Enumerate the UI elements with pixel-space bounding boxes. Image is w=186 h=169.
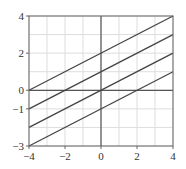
x-tick-label: 0 <box>98 150 104 162</box>
y-tick-label: −3 <box>12 140 24 152</box>
zero-axes <box>29 16 173 146</box>
x-tick-label: −2 <box>59 150 71 162</box>
y-tick-label: 0 <box>19 84 25 96</box>
y-tick-label: 4 <box>19 10 25 22</box>
line-chart: −4−2024 420−1−3 <box>0 0 186 169</box>
y-tick-label: 2 <box>19 47 25 59</box>
x-axis-ticks: −4−2024 <box>23 146 176 162</box>
y-axis-ticks: 420−1−3 <box>12 10 29 152</box>
x-tick-label: 4 <box>170 150 176 162</box>
y-tick-label: −1 <box>12 103 24 115</box>
x-tick-label: 2 <box>134 150 140 162</box>
x-tick-label: −4 <box>23 150 35 162</box>
